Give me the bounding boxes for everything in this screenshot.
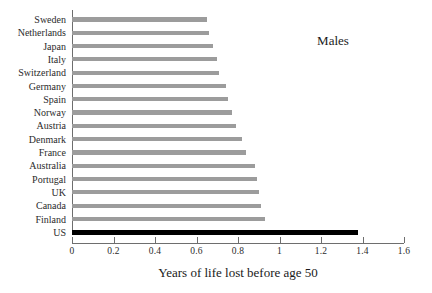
bar-finland (72, 217, 265, 221)
x-axis-tick-label: 0.2 (107, 246, 119, 256)
x-axis-tick-label: 0 (70, 246, 75, 256)
bar-row-label-japan: Japan (43, 41, 66, 52)
bar-netherlands (72, 31, 209, 35)
bar-row-label-austria: Austria (37, 120, 66, 131)
x-axis-line (72, 243, 404, 244)
bar-row-label-norway: Norway (34, 107, 66, 118)
bar-row: Spain (0, 94, 432, 107)
bar-row-label-canada: Canada (36, 200, 66, 211)
bar-row-label-finland: Finland (35, 214, 66, 225)
bar-row-label-us: US (53, 227, 66, 238)
bar-row: Finland (0, 214, 432, 227)
x-axis-tick-mark (155, 237, 156, 243)
bar-row: Germany (0, 81, 432, 94)
bar-row: France (0, 147, 432, 160)
bar-row: Sweden (0, 14, 432, 27)
bar-row-label-france: France (39, 147, 66, 158)
bar-row-label-uk: UK (52, 187, 66, 198)
bar-row-label-italy: Italy (48, 54, 66, 65)
x-axis-tick-mark (280, 237, 281, 243)
bar-row-label-spain: Spain (43, 94, 66, 105)
x-axis-tick-mark (363, 237, 364, 243)
x-axis-tick-label: 1.6 (398, 246, 410, 256)
bar-australia (72, 164, 255, 168)
bar-row: Japan (0, 41, 432, 54)
x-axis-tick-mark (72, 237, 73, 243)
bar-row: Netherlands (0, 27, 432, 40)
bar-canada (72, 204, 261, 208)
bar-germany (72, 84, 226, 88)
x-axis-tick-mark (197, 237, 198, 243)
bar-spain (72, 97, 228, 101)
x-axis-tick-mark (404, 237, 405, 243)
x-axis-tick-mark (238, 237, 239, 243)
x-axis-tick-label: 0.4 (149, 246, 161, 256)
bar-row: UK (0, 187, 432, 200)
bar-uk (72, 190, 259, 194)
bar-row-label-switzerland: Switzerland (18, 67, 66, 78)
series-annotation-males: Males (317, 33, 349, 49)
bar-row: US (0, 227, 432, 240)
bar-austria (72, 124, 236, 128)
bar-row: Switzerland (0, 67, 432, 80)
bar-switzerland (72, 71, 219, 75)
bar-row-label-germany: Germany (29, 81, 66, 92)
x-axis-tick-label: 0.6 (190, 246, 202, 256)
x-axis-tick-label: 1 (277, 246, 282, 256)
x-axis-tick-label: 0.8 (232, 246, 244, 256)
bar-row-label-denmark: Denmark (29, 134, 66, 145)
bar-denmark (72, 137, 242, 141)
x-axis-title: Years of life lost before age 50 (158, 265, 318, 281)
bar-row: Austria (0, 120, 432, 133)
bar-sweden (72, 17, 207, 21)
bar-italy (72, 57, 217, 61)
bar-row-label-australia: Australia (29, 160, 66, 171)
plot-area: SwedenNetherlandsJapanItalySwitzerlandGe… (0, 0, 432, 246)
bar-row: Canada (0, 200, 432, 213)
bar-portugal (72, 177, 257, 181)
bar-norway (72, 110, 232, 114)
bar-us (72, 230, 358, 236)
bar-japan (72, 44, 213, 48)
bar-row: Portugal (0, 174, 432, 187)
bar-row-label-netherlands: Netherlands (18, 27, 66, 38)
x-axis-tick-mark (321, 237, 322, 243)
x-axis-tick-label: 1.2 (315, 246, 327, 256)
bar-row-label-portugal: Portugal (32, 174, 66, 185)
bar-row: Denmark (0, 134, 432, 147)
x-axis-tick-mark (114, 237, 115, 243)
bar-france (72, 150, 246, 154)
bar-row-label-sweden: Sweden (34, 14, 66, 25)
chart-figure: SwedenNetherlandsJapanItalySwitzerlandGe… (0, 0, 432, 293)
bar-row: Norway (0, 107, 432, 120)
bar-row: Australia (0, 160, 432, 173)
bar-row: Italy (0, 54, 432, 67)
x-axis-tick-label: 1.4 (356, 246, 368, 256)
